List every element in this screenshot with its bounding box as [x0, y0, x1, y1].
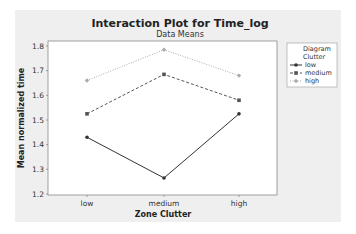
chart-title: Interaction Plot for Time_log — [91, 17, 268, 30]
y-tick-label: 1.4 — [32, 140, 44, 149]
legend-title-line1: Diagram — [303, 45, 331, 53]
data-point — [162, 176, 166, 180]
data-point — [85, 112, 89, 116]
x-axis-label: Zone Clutter — [135, 210, 192, 219]
data-point — [162, 73, 166, 77]
y-tick-label: 1.7 — [32, 66, 44, 75]
y-tick-label: 1.5 — [32, 116, 44, 125]
legend-label: high — [305, 77, 319, 85]
legend-title-line2: Clutter — [303, 53, 326, 61]
y-tick-label: 1.2 — [32, 190, 44, 199]
y-axis: 1.21.31.41.51.61.71.8 — [32, 42, 48, 199]
plot-area — [48, 41, 277, 195]
data-point — [237, 98, 241, 102]
y-axis-label: Mean normalized time — [17, 67, 26, 168]
y-tick-label: 1.8 — [32, 42, 44, 51]
data-point — [294, 71, 298, 75]
chart-subtitle: Data Means — [156, 30, 204, 39]
data-point — [85, 135, 89, 139]
interaction-plot: Interaction Plot for Time_log Data Means… — [0, 0, 356, 234]
legend: Diagram Clutter lowmediumhigh — [287, 43, 337, 87]
x-axis: lowmediumhigh — [81, 195, 248, 208]
data-point — [237, 112, 241, 116]
legend-label: low — [305, 61, 317, 69]
x-tick-label: high — [231, 199, 248, 208]
x-tick-label: low — [81, 199, 94, 208]
y-tick-label: 1.6 — [32, 91, 44, 100]
legend-label: medium — [305, 69, 332, 77]
x-tick-label: medium — [149, 199, 180, 208]
data-point — [294, 63, 298, 67]
y-tick-label: 1.3 — [32, 165, 44, 174]
